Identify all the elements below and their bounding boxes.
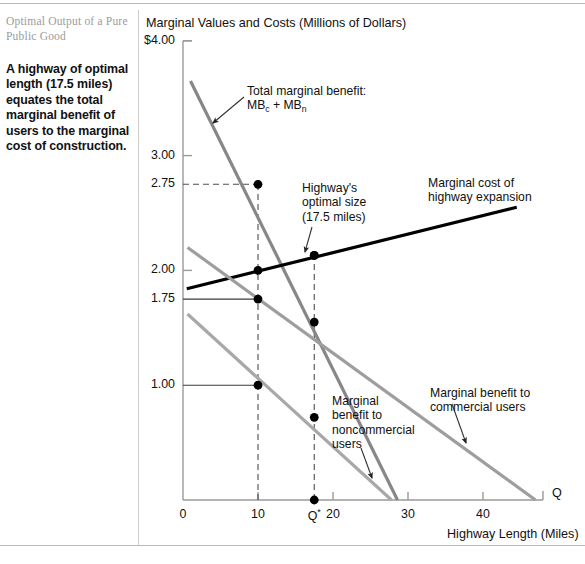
chart-plot-area: Marginal Values and Costs (Millions of D…: [0, 0, 585, 564]
data-point-marker: [254, 266, 263, 275]
annotation-total-marginal-benefit: Total marginal benefit:MBc + MBn: [247, 84, 366, 113]
annotation-marginal-benefit-commercial: Marginal benefit to commercial users: [430, 386, 530, 415]
data-point-marker: [254, 180, 263, 189]
annotation-marginal-benefit-noncommercial: Marginal benefit to noncommercial users: [332, 394, 415, 452]
y-axis-title: Marginal Values and Costs (Millions of D…: [146, 16, 406, 30]
y-tick-label: 2.75: [131, 176, 175, 190]
y-tick-label: 3.00: [131, 148, 175, 162]
data-point-marker: [310, 318, 319, 327]
annotation-marginal-cost: Marginal cost of highway expansion: [428, 176, 532, 205]
x-tick-label: 10: [238, 507, 278, 521]
x-axis-title: Highway Length (Miles): [447, 527, 579, 541]
data-point-marker: [254, 381, 263, 390]
x-tick-label: 30: [388, 507, 428, 521]
data-point-marker: [254, 295, 263, 304]
leader-optimal: [305, 227, 312, 252]
y-tick-label: 1.75: [131, 291, 175, 305]
data-point-marker: [310, 251, 319, 260]
optimal-point-marker: [310, 496, 319, 505]
y-tick-label: 1.00: [131, 377, 175, 391]
x-tick-label: 20: [313, 507, 353, 521]
y-tick-label: 2.00: [131, 262, 175, 276]
figure-root: Optimal Output of a Pure Public Good A h…: [0, 0, 585, 564]
series-line: [188, 247, 536, 500]
data-point-marker: [310, 413, 319, 422]
y-tick-label: $4.00: [131, 33, 175, 47]
x-axis-letter: Q: [552, 486, 562, 500]
annotation-highway-optimal-size: Highway's optimal size (17.5 miles): [302, 181, 366, 224]
leader-total-mb: [213, 97, 244, 123]
x-tick-label: 40: [463, 507, 503, 521]
x-tick-label: 0: [163, 507, 203, 521]
